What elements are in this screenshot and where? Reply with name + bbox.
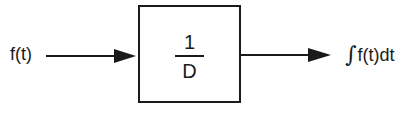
transfer-function: 1 D (140, 32, 239, 81)
transfer-denominator: D (140, 61, 239, 81)
output-arrow (241, 48, 331, 62)
integral-symbol: ∫ (345, 46, 356, 64)
input-signal-text: f(t) (10, 44, 32, 64)
transfer-numerator: 1 (140, 32, 239, 52)
output-signal-label: ∫f(t)dt (345, 45, 394, 64)
fraction-bar (175, 55, 204, 57)
input-signal-label: f(t) (10, 45, 32, 63)
input-arrow (46, 49, 136, 63)
output-signal-text: f(t)dt (357, 45, 394, 65)
integrator-block: 1 D (138, 5, 241, 103)
